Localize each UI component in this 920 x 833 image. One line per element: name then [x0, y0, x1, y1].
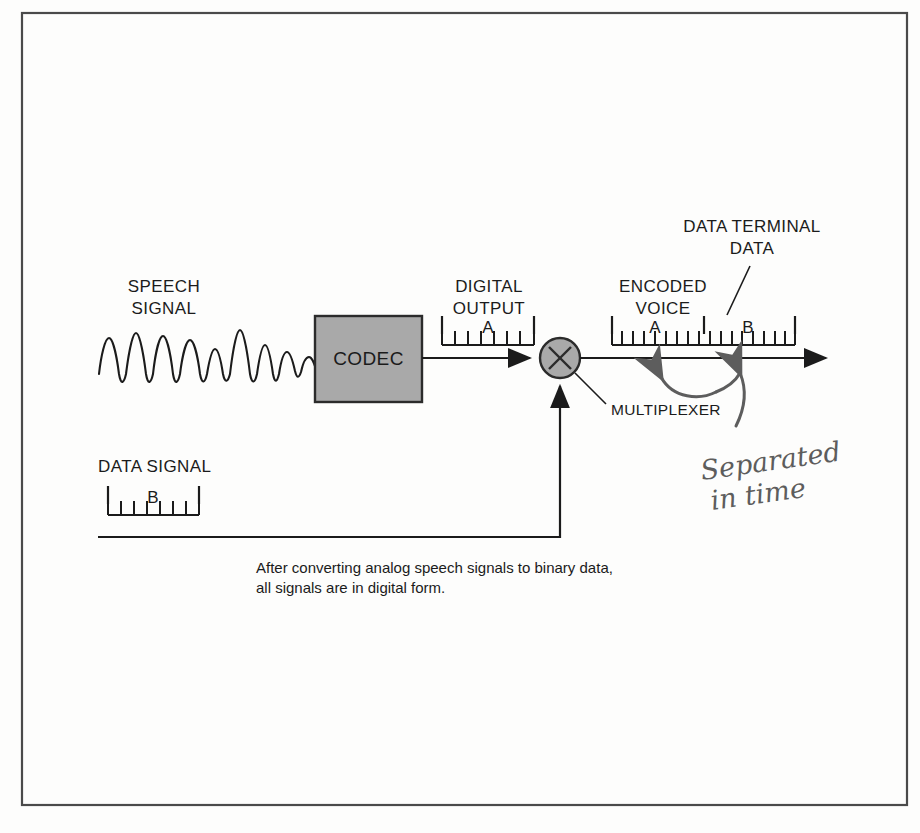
codec-block: CODEC — [315, 316, 422, 402]
encoded-voice-label-line1: ENCODED — [619, 277, 707, 296]
multiplexer-node — [540, 338, 580, 378]
digital-output-label-line2: OUTPUT — [453, 299, 525, 318]
data-signal-label: DATA SIGNAL — [98, 457, 211, 476]
speech-signal-label-line1: SPEECH — [128, 277, 200, 296]
multiplexer-label: MULTIPLEXER — [611, 401, 721, 418]
codec-block-label: CODEC — [333, 348, 404, 369]
data-terminal-data-label-line2: DATA — [730, 239, 775, 258]
caption-line2: all signals are in digital form. — [256, 579, 445, 596]
diagram-figure: SPEECH SIGNAL CODEC DIGITAL OUTPUT A — [0, 0, 920, 833]
page-background — [0, 0, 920, 833]
digital-output-label-line1: DIGITAL — [455, 277, 523, 296]
data-signal-segment-b-label: B — [147, 488, 158, 507]
speech-signal-label-line2: SIGNAL — [132, 299, 197, 318]
encoded-voice-segment-b-label: B — [742, 318, 753, 337]
caption-line1: After converting analog speech signals t… — [256, 559, 613, 576]
encoded-voice-label-line2: VOICE — [636, 299, 691, 318]
data-terminal-data-label-line1: DATA TERMINAL — [683, 217, 820, 236]
digital-output-segment-a-label: A — [482, 318, 494, 337]
